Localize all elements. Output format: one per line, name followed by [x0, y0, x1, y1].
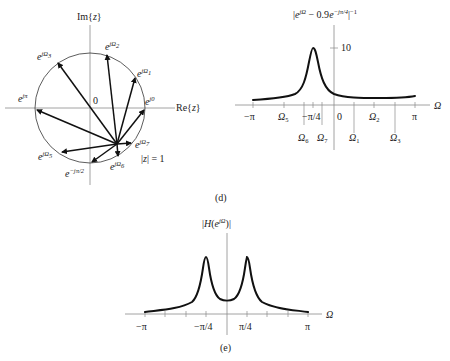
figure-canvas: Im{z} Re{z} 0 ejπ ejΩ3 ejΩ2 ejΩ1 ej0 ejΩ…	[0, 0, 450, 361]
xtick-omega3: Ω3	[390, 132, 400, 144]
z-plane-diagram: Im{z} Re{z} 0 ejπ ejΩ3 ejΩ2 ejΩ1 ej0 ejΩ…	[5, 11, 201, 185]
panel-e-ylabel: |H(ejΩ)|	[202, 217, 231, 230]
xtick-e-neg-pi-4: −π/4	[194, 321, 212, 332]
vector-e-jomega6	[117, 144, 118, 156]
magnitude-curve-e	[145, 257, 308, 312]
xtick-e-pi-4: π/4	[239, 321, 252, 332]
xtick-neg-pi: −π	[244, 111, 255, 122]
xtick-omega5: Ω5	[278, 111, 288, 123]
xtick-omega2: Ω2	[369, 111, 379, 123]
xtick-neg-pi-4: −π/4	[302, 111, 320, 122]
label-e-jomega6: ejΩ6	[110, 160, 125, 172]
origin-label: 0	[93, 95, 98, 106]
xtick-e-pi: π	[305, 321, 310, 332]
label-e-jomega2: ejΩ2	[105, 40, 120, 52]
unit-circle-label: |z| = 1	[141, 153, 165, 164]
ytick-label-10: 10	[341, 42, 351, 53]
panel-d-plot: 10 |ejΩ − 0.9e−jπ/4|−1 −π Ω5 −π/4 0 Ω2 π…	[235, 8, 441, 150]
xtick-omega7: Ω7	[317, 132, 328, 144]
panel-e-caption: (e)	[220, 342, 231, 354]
panel-d-caption: (d)	[215, 192, 227, 204]
omega-axis-label-d: Ω	[434, 100, 441, 111]
vector-e-jomega2	[107, 55, 117, 144]
xtick-omega6: Ω6	[298, 132, 309, 144]
re-axis-label: Re{z}	[176, 102, 201, 113]
label-e-jomega7: ejΩ7	[135, 138, 150, 150]
label-e-j0: ej0	[145, 95, 155, 107]
xtick-e-neg-pi: −π	[136, 321, 147, 332]
im-axis-label: Im{z}	[77, 11, 102, 22]
label-e-neg-jpi2: e−jπ/2	[65, 167, 85, 179]
omega-axis-label-e: Ω	[326, 309, 333, 320]
label-e-jomega5: ejΩ5	[38, 150, 53, 162]
panel-e-plot: |H(ejΩ)| −π −π/4 π/4 π Ω	[125, 217, 333, 335]
label-e-jomega1: ejΩ1	[137, 67, 151, 79]
xtick-pi: π	[412, 111, 417, 122]
vectors	[37, 55, 144, 162]
xtick-zero: 0	[337, 111, 342, 122]
label-e-jpi: ejπ	[18, 92, 28, 104]
label-e-jomega3: ejΩ3	[37, 50, 52, 62]
xtick-omega1: Ω1	[349, 132, 359, 144]
panel-d-ylabel: |ejΩ − 0.9e−jπ/4|−1	[293, 8, 357, 20]
vector-e-jomega7	[117, 143, 131, 144]
vector-e-jomega1	[117, 78, 135, 144]
